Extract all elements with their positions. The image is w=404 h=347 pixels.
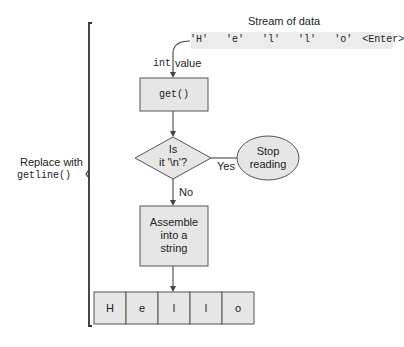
stream-chars: 'H' 'e' 'l' 'l' 'o' <Enter>	[190, 34, 404, 45]
stream-char: 'l'	[298, 34, 316, 45]
cell-char: H	[94, 302, 126, 314]
input-type: int	[153, 58, 171, 69]
bracket-label-line2: getline()	[17, 170, 71, 181]
stream-char: <Enter>	[362, 34, 404, 45]
bracket-label-line1: Replace with	[20, 156, 83, 168]
cell-char: l	[190, 302, 222, 314]
stop-label: Stop reading	[237, 145, 299, 171]
assemble-label: Assemble into a string	[140, 216, 208, 255]
brace-bracket	[89, 23, 92, 326]
cell-char: o	[222, 302, 254, 314]
input-name: value	[175, 57, 201, 69]
decision-label: Is it '\n'?	[135, 143, 211, 169]
stream-title: Stream of data	[248, 15, 320, 27]
cell-char: l	[158, 302, 190, 314]
yes-label: Yes	[217, 160, 235, 172]
no-label: No	[179, 186, 193, 198]
stream-char: 'H'	[190, 34, 208, 45]
stream-char: 'o'	[334, 34, 352, 45]
stream-char: 'l'	[262, 34, 280, 45]
get-label: get()	[140, 89, 208, 100]
cell-char: e	[126, 302, 158, 314]
stream-char: 'e'	[226, 34, 244, 45]
